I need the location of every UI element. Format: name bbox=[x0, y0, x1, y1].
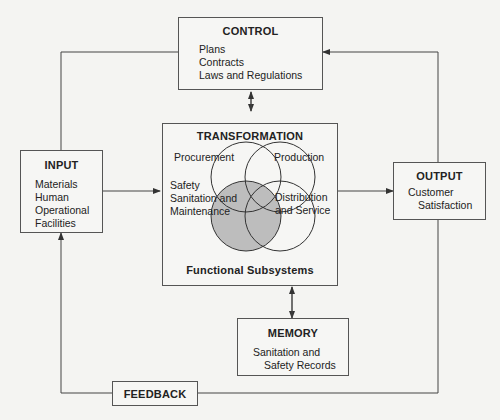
input-item-human: Human bbox=[35, 191, 69, 204]
memory-title: MEMORY bbox=[238, 327, 348, 339]
memory-item-safety-records: Safety Records bbox=[264, 359, 336, 372]
control-item-laws: Laws and Regulations bbox=[199, 69, 302, 82]
output-item-customer: Customer bbox=[408, 186, 454, 199]
feedback-title: FEEDBACK bbox=[113, 388, 197, 400]
input-item-materials: Materials bbox=[35, 178, 78, 191]
memory-item-sanitation: Sanitation and bbox=[253, 346, 320, 359]
control-title: CONTROL bbox=[179, 25, 322, 37]
control-item-contracts: Contracts bbox=[199, 56, 244, 69]
control-box: CONTROL Plans Contracts Laws and Regulat… bbox=[178, 17, 323, 90]
output-item-satisfaction: Satisfaction bbox=[418, 199, 472, 212]
subsystem-production: Production bbox=[274, 151, 324, 164]
input-box: INPUT Materials Human Operational Facili… bbox=[20, 150, 103, 233]
subsystem-safety-line1: Safety bbox=[170, 179, 200, 192]
output-box: OUTPUT Customer Satisfaction bbox=[393, 162, 486, 220]
feedback-box: FEEDBACK bbox=[112, 381, 198, 406]
subsystem-distribution-line2: and Service bbox=[275, 204, 330, 217]
transformation-box: TRANSFORMATION Procurement Production Sa… bbox=[162, 123, 338, 286]
subsystem-safety-line2: Sanitation and bbox=[170, 192, 237, 205]
subsystem-distribution-line1: Distribution bbox=[275, 191, 328, 204]
control-item-plans: Plans bbox=[199, 43, 225, 56]
functional-subsystems-caption: Functional Subsystems bbox=[163, 264, 337, 276]
memory-box: MEMORY Sanitation and Safety Records bbox=[237, 318, 349, 376]
input-item-facilities: Facilities bbox=[35, 217, 76, 230]
subsystem-procurement: Procurement bbox=[174, 151, 234, 164]
input-title: INPUT bbox=[21, 159, 102, 171]
input-item-operational: Operational bbox=[35, 204, 89, 217]
subsystem-safety-line3: Maintenance bbox=[170, 205, 230, 218]
output-title: OUTPUT bbox=[394, 170, 485, 182]
